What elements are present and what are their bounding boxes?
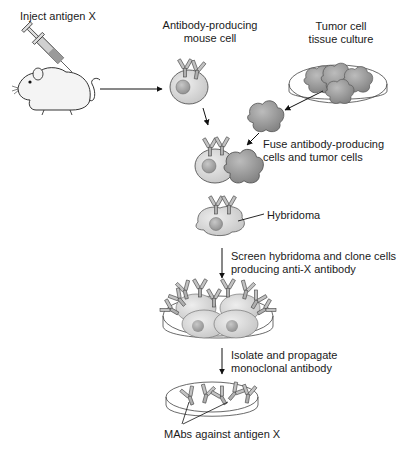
monoclonal-antibody-dish — [166, 381, 258, 424]
fused-cells — [195, 137, 263, 183]
label-isolate-line1: Isolate and propagate — [231, 349, 337, 362]
mouse-illustration — [12, 68, 100, 115]
label-inject-antigen: Inject antigen X — [20, 10, 96, 23]
label-antibody-producing-line1: Antibody-producing — [140, 19, 280, 32]
arrow-cell-to-fused — [203, 108, 208, 125]
label-antibody-producing-cell: Antibody-producing mouse cell — [140, 19, 280, 45]
arrow-tumor-to-fused — [247, 133, 259, 145]
label-screen-line2: producing anti-X antibody — [231, 263, 396, 276]
label-isolate-line2: monoclonal antibody — [231, 362, 337, 375]
cloned-hybridoma-dish — [159, 279, 278, 338]
label-fuse-line2: cells and tumor cells — [263, 151, 384, 164]
diagram-canvas — [0, 0, 404, 455]
label-screen-line1: Screen hybridoma and clone cells — [231, 250, 396, 263]
label-tumor-line2: tissue culture — [296, 33, 386, 46]
label-hybridoma: Hybridoma — [267, 209, 320, 222]
label-fuse-line1: Fuse antibody-producing — [263, 138, 384, 151]
label-isolate-propagate: Isolate and propagate monoclonal antibod… — [231, 349, 337, 375]
label-tumor-line1: Tumor cell — [296, 20, 386, 33]
label-tumor-culture: Tumor cell tissue culture — [296, 20, 386, 46]
tumor-cell — [248, 101, 284, 132]
antibody-producing-cell — [170, 59, 208, 104]
tumor-cell-culture-dish — [289, 63, 387, 103]
label-antibody-producing-line2: mouse cell — [140, 32, 280, 45]
label-screen-clone: Screen hybridoma and clone cells produci… — [231, 250, 396, 276]
label-fuse-cells: Fuse antibody-producing cells and tumor … — [263, 138, 384, 164]
label-mabs: MAbs against antigen X — [164, 428, 280, 441]
hybridoma-cell — [196, 196, 264, 236]
